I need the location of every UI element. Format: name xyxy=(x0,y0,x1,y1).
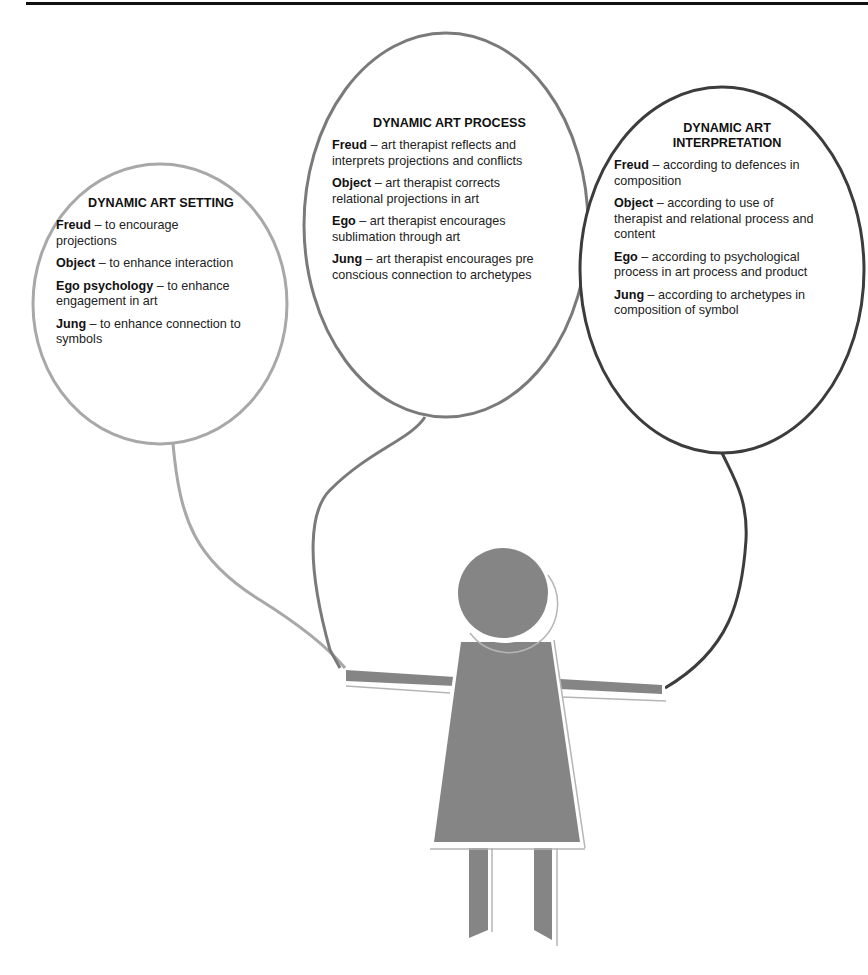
process-entry-ego: Ego – art therapist encourages sublimati… xyxy=(332,214,542,245)
process-entry-object: Object – art therapist corrects relation… xyxy=(332,176,532,207)
string-setting xyxy=(173,444,345,668)
interpretation-entry-jung: Jung – according to archetypes in compos… xyxy=(614,288,826,319)
setting-entry-object: Object – to enhance interaction xyxy=(56,256,266,272)
string-interpretation xyxy=(665,453,746,688)
string-process xyxy=(313,417,425,668)
bubble-process: DYNAMIC ART PROCESS Freud – art therapis… xyxy=(332,116,567,290)
person-figure xyxy=(346,548,666,946)
bubble-interpretation-title: DYNAMIC ART INTERPRETATION xyxy=(652,121,802,151)
interpretation-entry-ego: Ego – according to psychological process… xyxy=(614,250,840,281)
bubble-setting: DYNAMIC ART SETTING Freud – to encourage… xyxy=(56,196,266,355)
bubble-process-title: DYNAMIC ART PROCESS xyxy=(332,116,567,131)
interpretation-entry-object: Object – according to use of therapist a… xyxy=(614,196,824,243)
interpretation-entry-freud: Freud – according to defences in composi… xyxy=(614,158,814,189)
setting-entry-jung: Jung – to enhance connection to symbols xyxy=(56,317,256,348)
setting-entry-freud: Freud – to encourage projections xyxy=(56,218,206,249)
setting-entry-ego: Ego psychology – to enhance engagement i… xyxy=(56,279,256,310)
bubble-interpretation: DYNAMIC ART INTERPRETATION Freud – accor… xyxy=(614,121,840,326)
process-entry-jung: Jung – art therapist encourages pre cons… xyxy=(332,252,567,283)
bubble-setting-title: DYNAMIC ART SETTING xyxy=(56,196,266,211)
process-entry-freud: Freud – art therapist reflects and inter… xyxy=(332,138,567,169)
